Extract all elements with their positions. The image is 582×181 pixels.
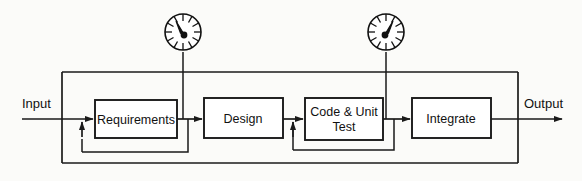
stage-label-integrate: Integrate — [426, 112, 475, 126]
stage-label-code-unit-test-line2: Test — [333, 120, 356, 134]
stage-box-code-unit-test[interactable]: Code & Unit Test — [305, 98, 383, 140]
stage-label-code-unit-test-line1: Code & Unit — [310, 105, 378, 119]
stage-box-design[interactable]: Design — [204, 98, 283, 138]
process-diagram: Requirements Design Code & Unit Test Int… — [0, 0, 582, 181]
stage-box-integrate[interactable]: Integrate — [412, 98, 491, 138]
input-label: Input — [22, 96, 51, 111]
output-label: Output — [524, 96, 563, 111]
stage-label-design: Design — [224, 112, 263, 126]
diagram-canvas: Requirements Design Code & Unit Test Int… — [0, 0, 582, 181]
stage-box-requirements[interactable]: Requirements — [95, 100, 177, 138]
stage-label-requirements: Requirements — [97, 113, 175, 127]
